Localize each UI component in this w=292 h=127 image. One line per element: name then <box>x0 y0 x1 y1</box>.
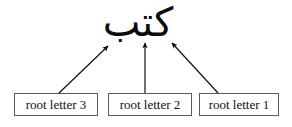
arrow-to-root-letter-1 <box>172 43 218 93</box>
label-box-root-letter-2-text: root letter 2 <box>120 98 181 111</box>
arrow-to-root-letter-3 <box>58 46 108 94</box>
arabic-word-kataba: كتب <box>96 0 180 45</box>
label-box-root-letter-2: root letter 2 <box>108 93 192 116</box>
root-letters-diagram: كتب root letter 3 root letter 2 root let… <box>0 0 292 127</box>
label-box-root-letter-3-text: root letter 3 <box>26 98 87 111</box>
label-box-root-letter-3: root letter 3 <box>14 93 98 116</box>
label-box-root-letter-1: root letter 1 <box>199 93 279 116</box>
label-box-root-letter-1-text: root letter 1 <box>209 98 270 111</box>
